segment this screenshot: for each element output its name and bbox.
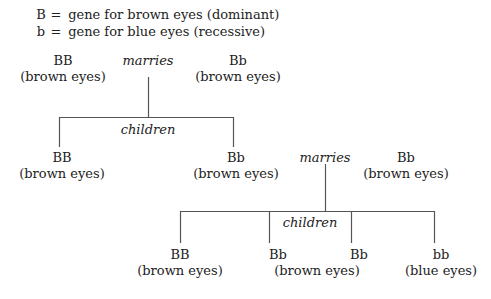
genotype: Bb: [195, 53, 281, 69]
genotype: BB: [19, 150, 105, 166]
child-2: Bb (brown eyes): [193, 150, 279, 182]
grandchild-4: bb (blue eyes): [405, 247, 477, 279]
genotype: BB: [137, 247, 223, 263]
phenotype: (brown eyes): [137, 263, 223, 279]
phenotype: (brown eyes): [193, 166, 279, 182]
child-1: BB (brown eyes): [19, 150, 105, 182]
phenotype: (brown eyes): [19, 166, 105, 182]
genotype: Bb: [363, 150, 449, 166]
marries-label-1: marries: [122, 53, 173, 69]
genotype: Bb: [193, 150, 279, 166]
genotype: BB: [20, 53, 106, 69]
spouse: Bb (brown eyes): [363, 150, 449, 182]
genotype: bb: [405, 247, 477, 263]
phenotype: (blue eyes): [405, 263, 477, 279]
phenotype: (brown eyes): [20, 69, 106, 85]
grandchild-1: BB (brown eyes): [137, 247, 223, 279]
parent-left: BB (brown eyes): [20, 53, 106, 85]
parent-right: Bb (brown eyes): [195, 53, 281, 85]
phenotype: (brown eyes): [363, 166, 449, 182]
grandchildren-2-3-phenotype: (brown eyes): [274, 263, 360, 279]
children-label-1: children: [121, 122, 176, 138]
grandchild-2-genotype: Bb: [269, 247, 287, 263]
phenotype: (brown eyes): [195, 69, 281, 85]
children-label-2: children: [283, 215, 338, 231]
grandchild-3-genotype: Bb: [350, 247, 368, 263]
marries-label-2: marries: [299, 150, 350, 166]
